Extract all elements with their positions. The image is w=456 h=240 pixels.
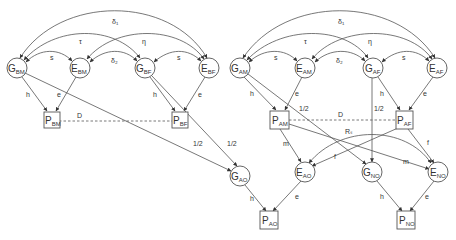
label-f-2: f [427,139,429,146]
label-half-right-1: 1/2 [299,105,309,112]
node-e-no: ENO [428,162,448,182]
edge-tau-left [24,33,140,60]
edge-tau-right [247,33,368,60]
label-h-left-1: h [26,91,30,98]
label-eta-left: η [142,38,146,46]
node-g-am: GAM [230,58,250,78]
label-h-left-2: h [153,91,157,98]
label-delta1-right: δ₁ [338,18,345,25]
label-half-left-2: 1/2 [227,140,237,147]
edge-s-right-1 [249,51,297,62]
node-g-af: GAF [363,58,383,78]
label-e-eno: e [425,193,429,200]
label-delta2-right: δ₂ [336,57,343,64]
node-p-bm: PBM [44,112,61,128]
node-e-bm: EBM [70,58,90,78]
label-h-gno: h [380,193,384,200]
path-diagram: δ₁ τ η s δ₂ s h e h e D 1/2 1/2 h δ₁ τ η… [0,0,456,240]
edge-h-gam-pam [244,77,276,110]
label-m-2: m [403,158,409,165]
node-p-af: PAF [396,111,413,129]
node-g-bf: GBF [135,58,155,78]
label-e-right-2: e [423,90,427,97]
label-half-left-1: 1/2 [193,140,203,147]
label-h-right-2: h [380,90,384,97]
node-g-ao: GAO [230,166,250,186]
label-Rs: Rₛ [345,128,353,135]
node-e-am: EAM [295,58,315,78]
label-h-gao: h [250,195,254,202]
label-D-right: D [338,111,343,118]
node-p-no: PNO [397,211,415,229]
edge-eta-right [312,34,432,60]
edge-e-eno-pno [410,181,434,211]
edge-f-paf-eao [312,128,398,166]
edge-Rs [309,135,431,164]
node-e-bf: EBF [199,58,219,78]
node-e-ao: EAO [295,162,315,182]
label-e-right-1: e [295,90,299,97]
node-p-am: PAM [270,111,289,129]
label-e-eao: e [295,193,299,200]
label-delta2-left: δ₂ [111,57,118,64]
label-s-right-2: s [402,54,406,61]
label-half-right-2: 1/2 [374,105,384,112]
label-e-left-1: e [57,91,61,98]
node-p-ao: PAO [260,211,278,229]
label-delta1-left: δ₁ [112,18,119,25]
label-e-left-2: e [198,91,202,98]
label-h-right-1: h [250,90,254,97]
label-m-1: m [283,140,289,147]
edge-h-gao-pao [245,185,266,211]
node-p-bf: PBF [172,112,188,128]
label-tau-right: τ [304,38,307,45]
label-s-left-1: s [50,54,54,61]
label-eta-right: η [368,38,372,46]
edge-half-gam-gno [248,74,366,164]
label-s-left-2: s [177,54,181,61]
node-e-af: EAF [427,58,447,78]
edge-s-left-1 [26,51,72,62]
label-tau-left: τ [79,38,82,45]
label-D-left: D [77,112,82,119]
edge-s-right-2 [382,51,429,62]
label-s-right-1: s [274,54,278,61]
node-g-no: GNO [362,162,382,182]
edge-e-eaf-paf [409,77,433,110]
edge-f-paf-eno [408,129,434,163]
label-f-1: f [334,153,336,160]
node-g-bm: GBM [7,58,27,78]
